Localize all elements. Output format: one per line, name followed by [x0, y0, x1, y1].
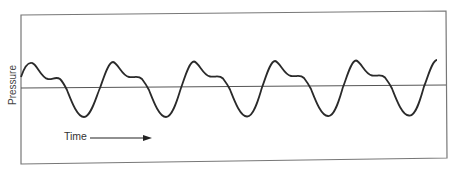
- time-arrow: [90, 135, 152, 141]
- pressure-waveform: [21, 60, 437, 117]
- arrowhead-icon: [143, 135, 152, 141]
- y-axis-label: Pressure: [4, 62, 20, 108]
- time-label: Time: [64, 130, 87, 142]
- mean-baseline: [21, 85, 446, 88]
- pressure-diagram: [0, 0, 459, 169]
